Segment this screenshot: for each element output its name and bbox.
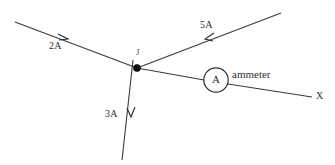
current-label-5a: 5A xyxy=(200,20,213,30)
wire-right-left-segment xyxy=(137,68,204,80)
current-label-3a: 3A xyxy=(105,109,118,119)
diagram-canvas xyxy=(0,0,335,165)
wire-right-segment xyxy=(228,84,312,97)
arrowhead-5a-icon xyxy=(205,33,214,41)
circuit-diagram: 2A 5A 3A J A ammeter X xyxy=(0,0,335,165)
ammeter-label: ammeter xyxy=(232,69,270,80)
ammeter-letter: A xyxy=(212,74,220,85)
terminal-label-x: X xyxy=(316,91,323,101)
junction-node xyxy=(133,64,140,71)
wire-upper-left xyxy=(15,22,137,68)
current-label-2a: 2A xyxy=(49,41,62,51)
junction-label: J xyxy=(136,48,140,57)
